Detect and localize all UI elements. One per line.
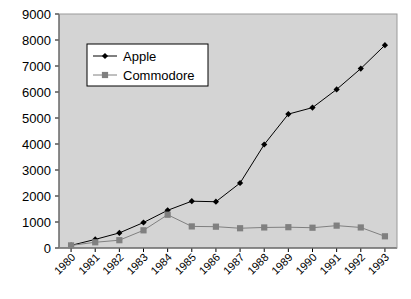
x-tick-label: 1981	[76, 251, 102, 277]
data-point-commodore-1992	[358, 224, 364, 230]
y-tick-label: 0	[44, 241, 51, 256]
data-point-commodore-1987	[237, 225, 243, 231]
chart-legend: AppleCommodore	[87, 44, 208, 86]
x-tick-label: 1989	[269, 251, 295, 277]
x-tick-label: 1985	[172, 251, 198, 277]
x-tick-label: 1982	[100, 251, 126, 277]
x-tick-label: 1983	[124, 251, 150, 277]
x-tick-label: 1986	[197, 251, 223, 277]
data-point-commodore-1990	[309, 225, 315, 231]
y-tick-label: 1000	[22, 215, 51, 230]
y-tick-label: 4000	[22, 137, 51, 152]
data-point-commodore-1985	[189, 223, 195, 229]
y-tick-label: 6000	[22, 85, 51, 100]
data-point-commodore-1983	[140, 227, 146, 233]
data-point-commodore-1981	[92, 239, 98, 245]
legend-label-commodore: Commodore	[123, 68, 195, 83]
chart-container: 0100020003000400050006000700080009000198…	[0, 0, 411, 299]
data-point-commodore-1980	[68, 242, 74, 248]
x-tick-label: 1987	[221, 251, 247, 277]
x-tick-label: 1980	[52, 251, 78, 277]
x-tick-label: 1990	[293, 251, 319, 277]
x-tick-label: 1988	[245, 251, 271, 277]
x-tick-label: 1991	[317, 251, 343, 277]
y-tick-label: 7000	[22, 59, 51, 74]
data-point-commodore-1986	[213, 224, 219, 230]
data-point-commodore-1991	[334, 223, 340, 229]
y-tick-label: 3000	[22, 163, 51, 178]
x-tick-label: 1993	[366, 251, 392, 277]
x-tick-label: 1992	[341, 251, 367, 277]
data-point-commodore-1989	[285, 224, 291, 230]
y-tick-label: 9000	[22, 7, 51, 22]
data-point-commodore-1982	[116, 237, 122, 243]
data-point-commodore-1988	[261, 224, 267, 230]
legend-label-apple: Apple	[123, 49, 156, 64]
y-tick-label: 8000	[22, 33, 51, 48]
data-point-commodore-1984	[165, 212, 171, 218]
y-tick-label: 2000	[22, 189, 51, 204]
legend-marker-commodore	[102, 72, 108, 78]
data-point-commodore-1993	[382, 233, 388, 239]
y-tick-label: 5000	[22, 111, 51, 126]
x-tick-label: 1984	[148, 251, 174, 277]
line-chart: 0100020003000400050006000700080009000198…	[0, 0, 411, 299]
